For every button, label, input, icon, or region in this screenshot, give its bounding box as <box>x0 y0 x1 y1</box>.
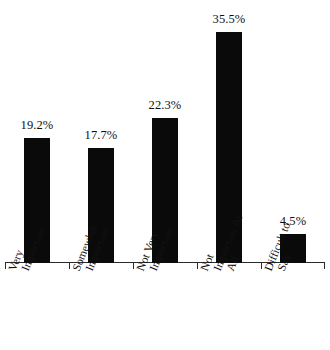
x-axis-category-labels: VeryImportant SomewhatImportant Not Very… <box>0 266 330 350</box>
bar-value-label: 35.5% <box>203 13 255 26</box>
category-label: VeryImportant <box>6 266 72 350</box>
category-label: Difficult toSay <box>262 266 328 350</box>
bar-value-label: 17.7% <box>75 129 127 142</box>
category-label: Not VeryImportant <box>134 266 200 350</box>
bar-value-label: 19.2% <box>11 119 63 132</box>
bar-value-label: 22.3% <box>139 99 191 112</box>
category-label: SomewhatImportant <box>70 266 136 350</box>
bar-chart: 19.2% 17.7% 22.3% 35.5% 4.5% VeryImporta… <box>0 0 330 350</box>
bar-value-label: 4.5% <box>267 215 319 228</box>
category-label: NotImportant AtAll <box>198 266 264 350</box>
